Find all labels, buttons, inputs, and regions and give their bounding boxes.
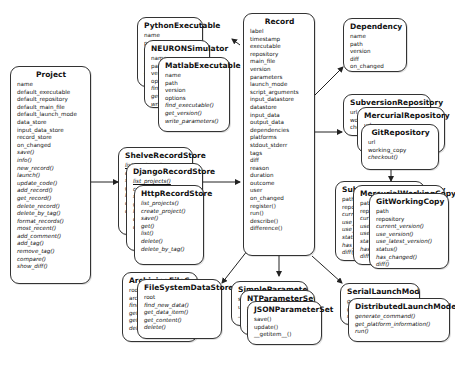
operation: remove_tag() — [17, 248, 85, 256]
class-title: FileSystemDataStore — [144, 283, 216, 293]
operation: delete() — [144, 324, 216, 332]
class-title: Record — [250, 17, 309, 27]
class-distributed-launch-mode: DistributedLaunchMode generate_command()… — [348, 298, 450, 342]
operation: get() — [141, 223, 198, 231]
attribute: outcome — [250, 180, 309, 188]
attribute: datastore — [250, 104, 309, 112]
operation: format_records() — [17, 218, 85, 226]
attribute: working_copy — [368, 147, 433, 155]
attribute: url — [368, 139, 433, 147]
operation: status() — [376, 246, 443, 254]
attribute: root — [144, 294, 216, 302]
operation: get_content() — [144, 317, 216, 325]
attribute: timestamp — [250, 36, 309, 44]
operation: most_recent() — [17, 225, 85, 233]
class-record: Record label timestamp executable reposi… — [243, 13, 315, 256]
attribute: dependencies — [250, 127, 309, 135]
attribute: options — [165, 95, 224, 103]
attribute: default_launch_mode — [17, 111, 85, 119]
attribute: label — [250, 28, 309, 36]
operation: save() — [141, 215, 198, 223]
class-title: GitRepository — [368, 128, 433, 138]
operation: delete_by_tag() — [141, 246, 198, 254]
attribute: reason — [250, 165, 309, 173]
operation: use_version() — [376, 231, 443, 239]
class-title: MatlabExecutable — [165, 61, 224, 71]
operation: delete() — [141, 238, 198, 246]
operation: compare() — [17, 256, 85, 264]
operation: describe() — [250, 218, 309, 226]
attribute: launch_mode — [250, 81, 309, 89]
attribute: data_store — [17, 119, 85, 127]
attribute: input_data_store — [17, 127, 85, 135]
attribute: script_arguments — [250, 89, 309, 97]
operation: write_parameters() — [165, 118, 224, 126]
operation: find_new_data() — [144, 302, 216, 310]
operation: generate_command() — [355, 313, 444, 321]
class-http-record-store: HttpRecordStore list_projects() create_p… — [134, 185, 204, 265]
attribute: name — [350, 33, 401, 41]
operation: run() — [250, 210, 309, 218]
operation: current_version() — [376, 223, 443, 231]
attribute: on_changed — [17, 142, 85, 150]
operation: checkout() — [368, 154, 433, 162]
class-json-parameter-set: JSONParameterSet save() update() __getit… — [247, 301, 322, 345]
attribute: main_file — [250, 58, 309, 66]
class-project: Project name default_executable default_… — [10, 66, 91, 284]
operation: add_record() — [17, 187, 85, 195]
operation: list() — [141, 230, 198, 238]
operation: diff() — [376, 261, 443, 269]
attribute: user — [250, 187, 309, 195]
class-title: Project — [17, 70, 85, 80]
class-title: SerialLaunchMode — [347, 287, 414, 297]
attribute: diff — [350, 56, 401, 64]
arrow-record-to-executable — [232, 39, 240, 45]
operation: difference() — [250, 225, 309, 233]
attribute: name — [165, 72, 224, 80]
class-title: GitWorkingCopy — [376, 197, 443, 207]
operation: get_data_item() — [144, 309, 216, 317]
attribute: default_main_file — [17, 104, 85, 112]
class-title: ShelveRecordStore — [125, 151, 187, 161]
attribute: input_data — [250, 112, 309, 120]
operation: delete_by_tag() — [17, 210, 85, 218]
class-git-working-copy: GitWorkingCopy path repository current_v… — [369, 193, 449, 269]
attribute: name — [17, 81, 85, 89]
operation: find_executable() — [165, 102, 224, 110]
attribute: default_executable — [17, 89, 85, 97]
operation: use_latest_version() — [376, 238, 443, 246]
arrow-record-to-launchmode — [312, 256, 342, 283]
attribute: output_data — [250, 119, 309, 127]
attribute: record_store — [17, 134, 85, 142]
class-dependency: Dependency name path version diff on_cha… — [343, 18, 407, 72]
attribute: on_changed — [350, 63, 401, 71]
class-title: Dependency — [350, 22, 401, 32]
operation: info() — [17, 157, 85, 165]
attribute: version — [250, 66, 309, 74]
operation: launch() — [17, 172, 85, 180]
operation: run() — [355, 328, 444, 336]
attribute: on_changed — [250, 195, 309, 203]
class-title: HttpRecordStore — [141, 189, 198, 199]
operation: show_diff() — [17, 263, 85, 271]
attribute: version — [350, 48, 401, 56]
attribute: parameters — [250, 74, 309, 82]
operation: create_project() — [141, 208, 198, 216]
operation: get_platform_information() — [355, 321, 444, 329]
class-title: NEURONSimulator — [151, 44, 204, 54]
operation: save() — [17, 149, 85, 157]
attribute: name — [144, 32, 197, 40]
operation: update_code() — [17, 180, 85, 188]
operation: delete_record() — [17, 203, 85, 211]
attribute: duration — [250, 172, 309, 180]
class-matlab-executable: MatlabExecutable name path version optio… — [158, 57, 230, 132]
attribute: stdout_stderr — [250, 142, 309, 150]
operation: add_tag() — [17, 240, 85, 248]
attribute: path — [165, 80, 224, 88]
class-git-repository: GitRepository url working_copy checkout(… — [361, 124, 439, 170]
attribute: diff — [250, 157, 309, 165]
class-title: PythonExecutable — [144, 21, 197, 31]
operation: save() — [254, 316, 316, 324]
class-title: JSONParameterSet — [254, 305, 316, 315]
operation: has_changed() — [376, 254, 443, 262]
